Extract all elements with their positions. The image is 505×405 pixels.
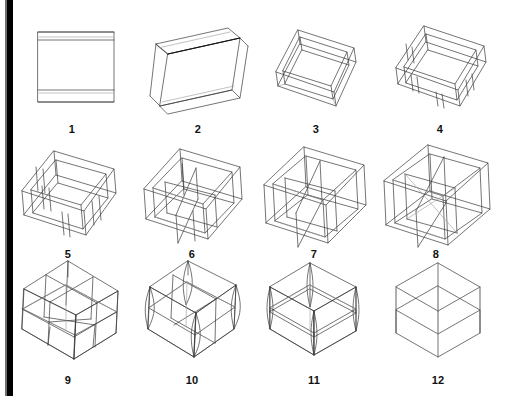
figure-label: 3	[254, 123, 378, 136]
figure-7-box-tall-dividers: 7	[252, 143, 376, 271]
figure-7-artwork	[252, 143, 376, 249]
figure-1-box-edge-on: 1	[10, 18, 134, 146]
figure-5-tray-deeper: 5	[6, 143, 130, 271]
figure-label: 12	[376, 374, 500, 387]
figure-4-artwork	[378, 18, 502, 124]
figure-11-cube-near-isometric: 11	[252, 255, 376, 397]
figure-6-artwork	[130, 143, 254, 249]
figure-8-artwork	[374, 143, 498, 249]
figure-12-cube-isometric: 12	[376, 255, 500, 397]
figure-9-cube-subdivided: 9	[6, 255, 130, 397]
figure-label: 11	[252, 374, 376, 387]
figure-6-box-with-dividers: 6	[130, 143, 254, 271]
figure-9-artwork	[6, 255, 130, 375]
figure-4-open-tray-with-wall-edges: 4	[378, 18, 502, 146]
figure-2-box-slight-tilt: 2	[136, 18, 260, 146]
figure-label: 10	[130, 374, 254, 387]
figure-10-artwork	[130, 255, 254, 375]
figure-label: 2	[136, 123, 260, 136]
figure-12-artwork	[376, 255, 500, 375]
figure-label: 9	[6, 374, 130, 387]
figure-label: 1	[10, 123, 134, 136]
figure-5-artwork	[6, 143, 130, 249]
figure-3-open-tray-shallow: 3	[254, 18, 378, 146]
figure-2-artwork	[136, 18, 260, 124]
figure-8-box-crossing-dividers: 8	[374, 143, 498, 271]
figure-10-cube-rotated: 10	[130, 255, 254, 397]
figure-label: 4	[378, 123, 502, 136]
figure-1-artwork	[10, 18, 134, 124]
figure-plate: 1	[0, 0, 505, 405]
figure-11-artwork	[252, 255, 376, 375]
figure-3-artwork	[254, 18, 378, 124]
